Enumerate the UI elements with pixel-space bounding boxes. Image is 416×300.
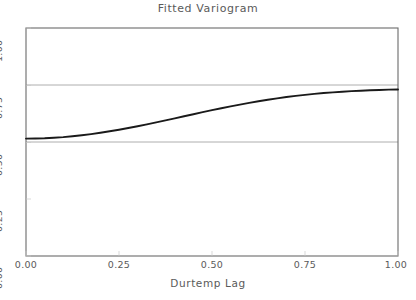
plot-canvas: [0, 0, 416, 300]
variogram-curve: [26, 89, 398, 138]
x-tick-label-2: 0.50: [201, 259, 223, 270]
y-tick-label-3: 0.75: [0, 96, 4, 118]
x-tick-label-4: 1.00: [385, 259, 407, 270]
x-tick-label-3: 0.75: [294, 259, 316, 270]
y-tick-label-4: 1.00: [0, 39, 4, 61]
x-tick-label-1: 0.25: [108, 259, 130, 270]
gridlines-group: [26, 85, 398, 142]
x-tick-label-0: 0.00: [15, 259, 37, 270]
y-tick-label-1: 0.25: [0, 210, 4, 232]
x-axis-label: Durtemp Lag: [0, 277, 416, 289]
x-tick-marks: [26, 251, 398, 256]
variogram-figure: Fitted Variogram 0.00 0.25 0.50 0.75 1.0…: [0, 0, 416, 300]
y-tick-label-2: 0.50: [0, 153, 4, 175]
